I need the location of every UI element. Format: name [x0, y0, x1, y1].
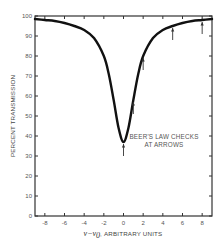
annotation-line-1: BEER'S LAW CHECKS [129, 133, 198, 140]
transmission-chart: 0102030405060708090100 -8-6-4-202468 PER… [0, 0, 224, 243]
y-tick-label: 0 [29, 213, 33, 219]
x-tick-label: -4 [81, 220, 87, 226]
x-tick-label: -2 [101, 220, 107, 226]
arrow-marker [171, 28, 174, 40]
plot-frame [35, 16, 212, 216]
x-tick-label: -8 [42, 220, 48, 226]
x-axis-symbol: ν−ν [84, 229, 97, 238]
transmission-curve [35, 19, 212, 142]
arrow-marker [201, 22, 204, 34]
x-tick-label: -6 [62, 220, 68, 226]
y-tick-label: 30 [25, 153, 32, 159]
y-tick-label: 10 [25, 193, 32, 199]
y-tick-label: 20 [25, 173, 32, 179]
y-tick-label: 70 [25, 73, 32, 79]
y-tick-label: 60 [25, 93, 32, 99]
x-tick-label: 0 [122, 220, 126, 226]
x-axis-ticks: -8-6-4-202468 [42, 16, 204, 226]
x-tick-label: 8 [200, 220, 204, 226]
arrow-marker [122, 144, 125, 156]
y-tick-label: 100 [22, 13, 33, 19]
x-tick-label: 6 [181, 220, 185, 226]
x-axis-label: ν−ν0, ARBITRARY UNITS [84, 229, 163, 240]
y-tick-label: 80 [25, 53, 32, 59]
y-axis-label: PERCENT TRANSMISSION [9, 75, 16, 157]
x-tick-label: 4 [161, 220, 165, 226]
annotation-line-2: AT ARROWS [144, 141, 183, 148]
x-axis-units: , ARBITRARY UNITS [100, 230, 162, 237]
y-tick-label: 90 [25, 33, 32, 39]
y-tick-label: 50 [25, 113, 32, 119]
x-tick-label: 2 [141, 220, 145, 226]
y-tick-label: 40 [25, 133, 32, 139]
